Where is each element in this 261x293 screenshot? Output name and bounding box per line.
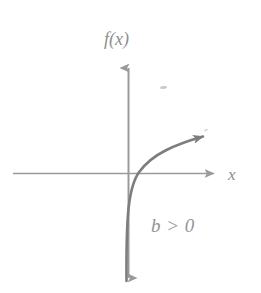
plot-canvas: [0, 0, 261, 293]
y-axis-label: f(x): [104, 30, 129, 48]
logarithmic-curve: [126, 137, 203, 281]
x-axis-label: x: [228, 166, 236, 183]
condition-annotation: b > 0: [151, 216, 195, 235]
logarithmic-function-figure: f(x) x b > 0: [0, 0, 261, 293]
